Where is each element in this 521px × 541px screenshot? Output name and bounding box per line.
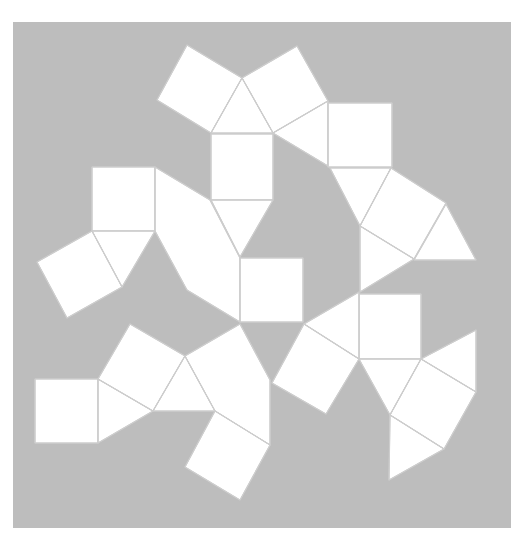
face-sq-center-upper [211, 134, 273, 200]
face-sq-right-mid [359, 294, 421, 359]
face-sq-bottom-left [35, 379, 98, 443]
face-sq-left-upper [92, 167, 155, 231]
face-sq-center-lower [240, 258, 303, 322]
polyhedron-net-diagram [0, 0, 521, 541]
face-sq-right-upper [328, 103, 392, 167]
